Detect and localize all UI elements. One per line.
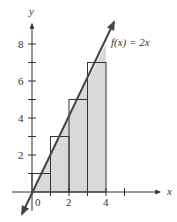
x-tick-label-2: 2 (66, 196, 72, 208)
function-label: f(x) = 2x (111, 36, 150, 49)
x-axis-label: x (166, 185, 172, 197)
y-tick-label-4: 4 (18, 112, 24, 124)
y-tick-label-6: 6 (18, 75, 24, 87)
x-tick-label-0: 0 (35, 196, 41, 208)
x-tick-label-4: 4 (103, 196, 109, 208)
y-tick-label-8: 8 (18, 38, 24, 50)
riemann-sum-chart: 0 2 4 2 4 6 8 x y f(x) = 2x (0, 0, 177, 222)
y-tick-label-2: 2 (18, 149, 24, 161)
y-axis-label: y (28, 5, 34, 17)
